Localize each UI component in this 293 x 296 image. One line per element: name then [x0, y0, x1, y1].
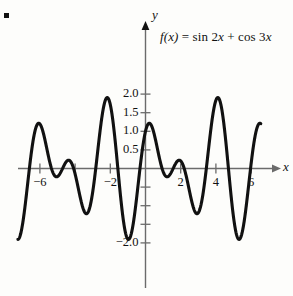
x-axis-arrow-icon	[272, 165, 281, 173]
figure-root: −6−2246−2.00.51.01.52.0 y x f(x) = sin 2…	[0, 0, 293, 296]
axes-group	[18, 21, 281, 288]
x-tick-label: −2	[99, 176, 121, 189]
x-tick-label: 2	[170, 176, 192, 189]
function-plot	[0, 0, 293, 296]
x-tick-label: 6	[240, 176, 262, 189]
function-equation-label: f(x) = sin 2x + cos 3x	[160, 30, 272, 43]
function-equation-lhs: f(x)	[160, 29, 178, 44]
x-tick-label: −6	[29, 176, 51, 189]
y-tick-label: 2.0	[94, 87, 139, 100]
function-equation-rhs: sin 2x + cos 3x	[193, 29, 272, 44]
y-tick-label: −2.0	[94, 236, 139, 249]
y-axis-label: y	[152, 8, 158, 21]
y-axis-arrow-icon	[142, 21, 150, 30]
y-tick-label: 0.5	[94, 143, 139, 156]
x-axis-label: x	[283, 160, 289, 173]
y-tick-label: 1.0	[94, 124, 139, 137]
x-tick-label: 4	[205, 176, 227, 189]
y-tick-label: 1.5	[94, 106, 139, 119]
